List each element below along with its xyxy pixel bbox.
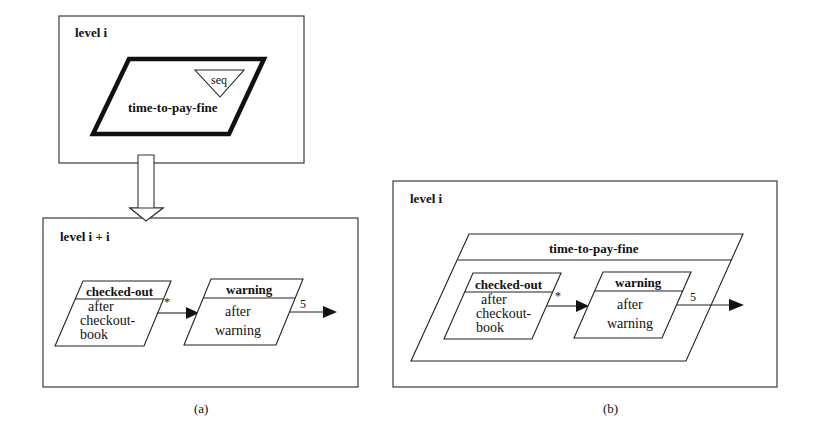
- caption-a: (a): [194, 401, 208, 416]
- diagram-canvas: level i seq time-to-pay-fine level i + i…: [0, 0, 819, 441]
- diagram-b-level-i: level i time-to-pay-fine checked-out aft…: [393, 181, 777, 387]
- checked-out-line-2-b: checkout-: [476, 306, 532, 321]
- checked-out-line-1: after: [88, 299, 114, 314]
- warning-line-2: warning: [215, 323, 261, 338]
- warning-line-1: after: [225, 304, 251, 319]
- level-i1-label: level i + i: [60, 229, 110, 244]
- superstate-label: time-to-pay-fine: [549, 241, 639, 256]
- level-i-label: level i: [75, 25, 108, 40]
- caption-b: (b): [603, 401, 618, 416]
- checked-out-label-b: checked-out: [475, 277, 543, 292]
- checked-out-line-3-b: book: [476, 320, 504, 335]
- checked-out-label: checked-out: [86, 284, 154, 299]
- transition-5-label: 5: [300, 297, 306, 311]
- checked-out-line-1-b: after: [481, 292, 507, 307]
- checked-out-line-3: book: [80, 327, 108, 342]
- checked-out-line-2: checkout-: [80, 313, 136, 328]
- warning-line-1-b: after: [617, 297, 643, 312]
- warning-label: warning: [226, 282, 273, 297]
- diagram-a-level-i: level i seq time-to-pay-fine: [59, 16, 304, 163]
- level-i-label-b: level i: [410, 191, 443, 206]
- transition-star-label: *: [164, 295, 170, 309]
- transition-5-label-b: 5: [690, 290, 696, 304]
- transition-star-label-b: *: [555, 289, 561, 303]
- warning-line-2-b: warning: [607, 316, 653, 331]
- warning-label-b: warning: [615, 275, 662, 290]
- seq-badge-label: seq: [211, 73, 227, 87]
- time-to-pay-fine-label: time-to-pay-fine: [128, 100, 218, 115]
- diagram-a-level-i1: level i + i checked-out after checkout- …: [43, 208, 358, 387]
